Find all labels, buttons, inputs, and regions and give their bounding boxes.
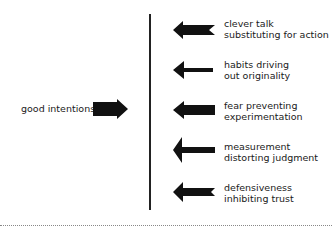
force-line1: measurement [224, 141, 318, 152]
left-arrow-icon [173, 61, 213, 79]
force-label: clever talk substituting for action [224, 18, 329, 40]
force-line2: experimentation [224, 111, 303, 122]
left-arrow-icon [173, 137, 215, 163]
left-arrow-icon [173, 182, 215, 202]
force-label: habits driving out originality [224, 59, 290, 81]
force-label: defensiveness inhibiting trust [224, 182, 294, 204]
force-line1: habits driving [224, 59, 290, 70]
force-line1: clever talk [224, 18, 329, 29]
dotted-rule [0, 225, 332, 226]
divider-line [149, 14, 151, 210]
force-line2: inhibiting trust [224, 193, 294, 204]
force-line1: fear preventing [224, 100, 303, 111]
force-label: measurement distorting judgment [224, 141, 318, 163]
good-intentions-label: good intentions [21, 103, 95, 114]
left-arrow-icon [173, 101, 215, 119]
left-arrow-icon [173, 21, 215, 39]
force-line1: defensiveness [224, 182, 294, 193]
force-label: fear preventing experimentation [224, 100, 303, 122]
force-line2: substituting for action [224, 29, 329, 40]
force-line2: out originality [224, 70, 290, 81]
force-line2: distorting judgment [224, 152, 318, 163]
right-arrow-icon [93, 99, 129, 119]
